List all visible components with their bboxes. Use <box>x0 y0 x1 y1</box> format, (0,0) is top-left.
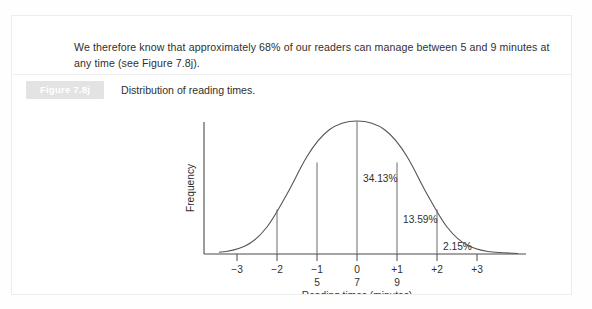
tick-label-minus2: −2 <box>271 264 283 275</box>
section-divider <box>13 74 571 75</box>
annotation-13-59-percent: 13.59% <box>403 214 438 225</box>
tick-label-secondary-9: 9 <box>394 277 400 288</box>
y-axis-title: Frequency <box>185 163 196 212</box>
figure-caption-row: Figure 7.8j Distribution of reading time… <box>26 80 566 102</box>
tick-label-secondary-5: 5 <box>314 277 320 288</box>
annotation-2-15-percent: 2.15% <box>443 241 472 252</box>
tick-label-minus3: −3 <box>231 264 243 275</box>
annotation-34-13-percent: 34.13% <box>363 173 398 184</box>
chart-area: −3 −2 −1 0 +1 +2 +3 5 7 9 34.13% 13.59% … <box>26 104 571 294</box>
x-axis-title: Reading times (minutes) <box>302 290 412 294</box>
tick-label-zero: 0 <box>354 264 360 275</box>
tick-label-minus1: −1 <box>311 264 323 275</box>
normal-distribution-chart: −3 −2 −1 0 +1 +2 +3 5 7 9 34.13% 13.59% … <box>26 104 571 294</box>
figure-number-badge: Figure 7.8j <box>26 81 104 99</box>
tick-label-plus1: +1 <box>391 264 403 275</box>
bell-curve-path <box>219 121 518 254</box>
figure-caption-text: Distribution of reading times. <box>121 81 255 99</box>
tick-label-plus2: +2 <box>431 264 443 275</box>
figure-content-card: We therefore know that approximately 68%… <box>11 15 572 295</box>
tick-label-plus3: +3 <box>471 264 483 275</box>
tick-label-secondary-7: 7 <box>354 277 360 288</box>
intro-paragraph: We therefore know that approximately 68%… <box>74 39 554 71</box>
document-page: We therefore know that approximately 68%… <box>0 0 592 309</box>
